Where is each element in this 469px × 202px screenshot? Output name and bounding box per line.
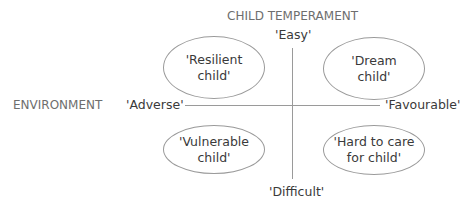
quadrant-label-line1: 'Hard to care <box>334 134 415 150</box>
horizontal-axis-line <box>185 105 380 106</box>
quadrant-vulnerable-child: 'Vulnerable child' <box>163 125 265 174</box>
quadrant-label-line2: for child' <box>334 150 415 166</box>
quadrant-resilient-child: 'Resilient child' <box>163 36 265 99</box>
quadrant-label-line2: child' <box>351 69 396 85</box>
left-pole-label: 'Adverse' <box>126 97 184 112</box>
quadrant-label-line1: 'Dream <box>351 53 396 69</box>
top-pole-label: 'Easy' <box>275 27 311 42</box>
quadrant-label-line1: 'Resilient <box>186 52 243 68</box>
horizontal-axis-title: ENVIRONMENT <box>13 98 102 112</box>
bottom-pole-label: 'Difficult' <box>269 184 324 199</box>
quadrant-label-line2: child' <box>179 150 249 166</box>
quadrant-label-line1: 'Vulnerable <box>179 134 249 150</box>
quadrant-dream-child: 'Dream child' <box>323 37 425 100</box>
quadrant-label-line2: child' <box>186 68 243 84</box>
quadrant-hard-to-care-for-child: 'Hard to care for child' <box>323 125 425 175</box>
vertical-axis-title: CHILD TEMPERAMENT <box>227 9 358 23</box>
right-pole-label: 'Favourable' <box>385 97 460 112</box>
vertical-axis-line <box>292 48 293 179</box>
